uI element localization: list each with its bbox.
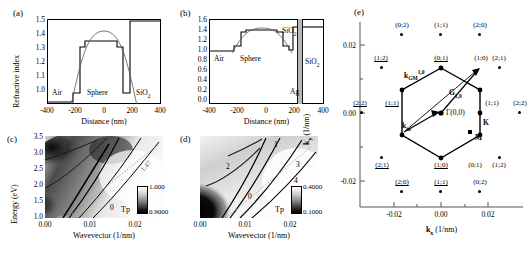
lattice-label-0bar-1bar: (0;1) [422,54,460,62]
panel-a-xtick-3: 200 [119,106,145,115]
lattice-label-1bar-1bar: (1;1) [374,99,410,107]
panel-d-colorbar-title: Tp [275,205,284,214]
panel-a-xtick-4: 400 [147,106,173,115]
panel-a-ytick-1: 1.1 [26,71,45,80]
panel-b-label-sphere: Sphere [240,54,261,63]
panel-b-label-ag: Ag [290,87,299,96]
vector-label-kGM: kGM1,0 [404,69,425,81]
panel-e-xtick-0: -0.02 [376,210,412,219]
vector-label-kin: kin [402,121,411,132]
panel-d-colorbar [291,186,302,214]
panel-c-xtick-1: 0.01 [77,220,103,229]
panel-c-contour-label-0: 0 [110,203,114,212]
panel-c-contour-label-1: 1 [58,176,62,185]
panel-c-ytick-1: 1.5 [25,196,43,205]
panel-b-label-air: Air [214,54,224,63]
panel-c-ylabel: Energy (eV) [10,184,19,224]
panel-a: (a) Refractive index 1.5 1.4 1.3 1.2 1.1… [0,0,178,131]
panel-e-ytick-0: 0.02 [318,41,356,50]
panel-b-ytick-7: 1.4 [188,25,207,34]
lattice-label-1-2: (1;2) [480,161,518,169]
lattice-label-0-2-bottom: (0;2) [461,178,499,186]
lattice-label-2-2: (2;2) [502,99,529,107]
panel-d-contour-label-3: 3 [296,160,300,169]
panel-a-label-sio2: SiO2 [136,88,150,99]
panel-e-xlabel: kx (1/nm) [360,225,523,236]
panel-b-label-sio2-top: SiO2 [282,26,296,37]
panel-a-ylabel: Refractive index [12,55,21,108]
panel-e-ytick-2: -0.02 [318,177,356,186]
lattice-label-2-0-top: (2;0) [461,21,499,29]
panel-d-contour-label-2: 2 [226,162,230,171]
panel-c-ytick-3: 2.5 [25,164,43,173]
panel-c-xtick-0: 0.00 [32,220,58,229]
panel-e-xtick-2: 0.02 [470,210,506,219]
panel-b-ytick-0: 0.0 [188,95,207,104]
panel-c: (c) Energy (eV) [0,130,178,261]
panel-a-xtick-2: 0 [91,106,117,115]
panel-b-ytick-2: 0.4 [188,75,207,84]
panel-d-xlabel: Wavevector (1/nm) [195,231,323,240]
panel-a-tag: (a) [13,8,23,18]
panel-c-colorbar-title: Tp [121,205,130,214]
panel-c-tag: (c) [7,134,17,144]
panel-a-xtick-0: -400 [34,106,60,115]
panel-a-label-sphere: Sphere [87,88,108,97]
panel-b-label-sio2-right: SiO2 [305,57,319,68]
panel-e-ytick-1: 0.00 [318,109,356,118]
panel-a-xtick-1: -200 [62,106,88,115]
panel-a-ytick-3: 1.3 [26,43,45,52]
panel-d-contour-label-1: 1 [274,140,278,149]
panel-c-ytick-4: 3.0 [25,148,43,157]
panel-c-ytick-2: 2.0 [25,180,43,189]
lattice-label-2bar-0bar: (2;0) [383,178,421,186]
panel-e-axes-and-lattice [338,0,529,261]
panel-d-contour-label-4: 4 [294,176,298,185]
panel-b-ytick-6: 1.2 [188,35,207,44]
panel-a-xlabel: Distance (nm) [47,117,161,126]
lattice-label-1bar-2: (1;2) [362,54,400,62]
lattice-label-0-2-top: (0;2) [383,21,421,29]
panel-b: (b) 1.6 1.4 1.2 1.0 0.8 0.6 0.4 0.2 0.0 … [178,0,338,131]
panel-d-xtick-2: 0.02 [277,220,303,229]
panel-b-xtick-2: 0 [253,106,279,115]
lattice-label-1-1-top: (1;1) [422,21,460,29]
panel-b-xtick-0: -400 [196,106,222,115]
lattice-label-2-1: (2;1) [480,54,518,62]
lattice-label-2bar-2: (2;2) [342,99,378,107]
panel-c-ytick-5: 3.5 [25,132,43,141]
panel-a-ytick-0: 1.0 [26,85,45,94]
panel-c-xlabel: Wavevector (1/nm) [40,231,168,240]
panel-b-ytick-8: 1.6 [188,15,207,24]
panel-a-ytick-5: 1.5 [26,15,45,24]
panel-b-ytick-1: 0.2 [188,85,207,94]
k-point-label: K [483,118,489,127]
panel-d-tag: (d) [180,134,191,144]
panel-c-colorbar-max: 1.000 [149,183,165,191]
panel-b-ytick-3: 0.6 [188,65,207,74]
panel-e: (e) ky (1/nm) [338,0,529,261]
panel-b-xtick-1: -200 [224,106,250,115]
panel-e-ylabel: ky (1/nm) [302,114,313,145]
panel-d: (d) [178,130,338,261]
panel-b-ytick-4: 0.8 [188,55,207,64]
lattice-label-1bar-0bar: (1;0) [422,161,460,169]
vector-label-G10: G1,0 [449,88,462,99]
panel-a-ytick-4: 1.4 [26,29,45,38]
gamma-point-label: Γ(0,0) [446,108,465,117]
figure-canvas: (a) Refractive index 1.5 1.4 1.3 1.2 1.1… [0,0,529,261]
lattice-label-1bar-1: (1;1) [422,178,460,186]
panel-d-contour-label-0: 0 [248,192,252,201]
panel-c-colorbar-min: 0.9000 [149,208,168,216]
panel-c-colorbar [137,186,148,214]
panel-d-xtick-1: 0.01 [232,220,258,229]
panel-a-ytick-2: 1.2 [26,57,45,66]
panel-b-ytick-5: 1.0 [188,45,207,54]
panel-d-xtick-0: 0.00 [187,220,213,229]
m-point-label: M [475,133,482,142]
panel-c-contour-label-2: 2 [62,140,66,149]
panel-d-colorbar-min: 0.1000 [303,208,322,216]
lattice-label-2bar-1bar: (2;1) [363,161,401,169]
panel-c-xtick-2: 0.02 [122,220,148,229]
panel-e-xtick-1: 0.00 [423,210,459,219]
